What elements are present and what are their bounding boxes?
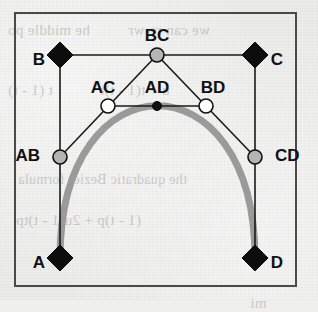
point-marker-CD[interactable]	[248, 150, 262, 164]
point-label-BD: BD	[201, 78, 226, 97]
point-marker-B[interactable]	[47, 42, 73, 68]
point-marker-AC[interactable]	[101, 99, 115, 113]
point-marker-AD[interactable]	[153, 102, 162, 111]
point-marker-C[interactable]	[242, 42, 268, 68]
point-label-D: D	[271, 253, 283, 272]
point-label-AD: AD	[145, 78, 170, 97]
point-label-AC: AC	[91, 78, 116, 97]
point-marker-AB[interactable]	[53, 150, 67, 164]
bezier-curve	[60, 106, 255, 258]
point-marker-BD[interactable]	[199, 99, 213, 113]
point-marker-D[interactable]	[242, 245, 268, 271]
point-marker-BC[interactable]	[150, 48, 164, 62]
point-label-BC: BC	[145, 26, 170, 45]
point-label-C: C	[271, 50, 283, 69]
point-label-CD: CD	[275, 146, 300, 165]
point-marker-A[interactable]	[47, 245, 73, 271]
point-label-B: B	[33, 50, 45, 69]
point-label-A: A	[33, 253, 45, 272]
point-label-AB: AB	[15, 146, 40, 165]
